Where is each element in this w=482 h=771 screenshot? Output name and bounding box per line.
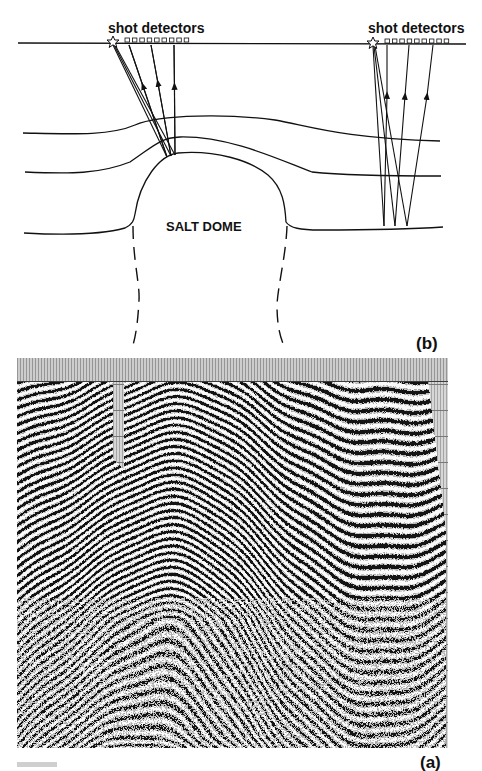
detector-icon: [429, 39, 434, 43]
detector-icon: [392, 39, 397, 43]
detector-icon: [400, 39, 405, 43]
salt-dome-right-flank-inferred: [277, 226, 287, 348]
right-ray-paths: [373, 45, 433, 226]
left-array-label: shot detectors: [108, 20, 205, 36]
salt-dome-label: SALT DOME: [166, 219, 242, 234]
panel-a-label: (a): [420, 753, 441, 771]
right-array-label: shot detectors: [368, 20, 465, 36]
detector-icon: [140, 38, 145, 42]
detector-icon: [437, 39, 442, 43]
caption-fragment: [17, 762, 57, 767]
detector-icon: [444, 39, 449, 43]
detector-icon: [132, 38, 137, 42]
detector-icon: [177, 38, 182, 42]
detector-icon: [162, 38, 167, 42]
left-detector-array: [125, 38, 189, 42]
right-detector-array: [385, 39, 449, 43]
ground-surface-line: [18, 43, 466, 44]
detector-icon: [422, 39, 427, 43]
detector-icon: [184, 38, 189, 42]
detector-icon: [155, 38, 160, 42]
detector-icon: [147, 38, 152, 42]
detector-icon: [169, 38, 174, 42]
panel-b-label: (b): [416, 334, 438, 353]
detector-icon: [415, 39, 420, 43]
detector-icon: [407, 39, 412, 43]
detector-icon: [385, 39, 390, 43]
salt-dome-left-flank-inferred: [133, 226, 139, 345]
seismic-section-image: [17, 358, 448, 748]
detector-icon: [125, 38, 130, 42]
left-ray-paths: [113, 45, 175, 157]
